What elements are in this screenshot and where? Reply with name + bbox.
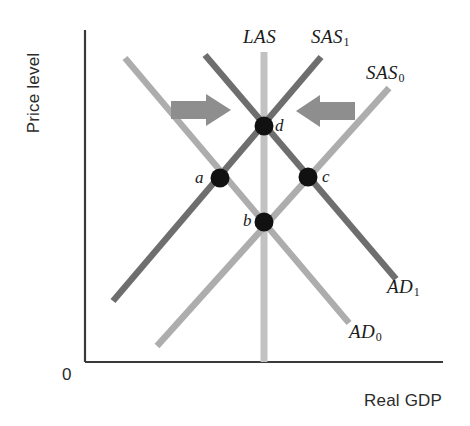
curve-label-sas1: SAS1	[311, 27, 350, 46]
curve-label-sas0: SAS0	[366, 63, 405, 82]
curve-ad1	[205, 55, 396, 279]
curve-label-sas1-sub: 1	[343, 35, 350, 49]
point-label-a: a	[195, 169, 204, 186]
point-a-marker	[211, 169, 230, 188]
curve-label-sas0-text: SAS	[366, 62, 398, 83]
point-label-b: b	[243, 212, 252, 229]
curve-label-ad1-text: AD	[387, 276, 413, 297]
y-axis-title: Price level	[24, 53, 44, 134]
as-ad-diagram-figure: Price level Real GDP 0 LAS SAS1 SAS0 AD1…	[0, 0, 470, 426]
x-axis-title: Real GDP	[364, 392, 442, 409]
curve-ad0	[125, 58, 349, 323]
curve-label-sas1-text: SAS	[311, 26, 343, 47]
curve-label-ad0-text: AD	[349, 321, 375, 342]
origin-label: 0	[62, 366, 71, 383]
curve-label-las-text: LAS	[243, 26, 276, 47]
point-c-marker	[299, 168, 318, 187]
curve-label-ad0: AD0	[349, 322, 382, 341]
curve-label-sas0-sub: 0	[398, 71, 405, 85]
point-label-c: c	[322, 168, 330, 185]
curve-label-ad1: AD1	[387, 277, 420, 296]
y-axis-title-wrapper: Price level	[22, 18, 46, 168]
point-b-marker	[255, 213, 274, 232]
curve-label-ad1-sub: 1	[413, 285, 420, 299]
curve-label-las: LAS	[243, 27, 276, 46]
leftward-shift-arrow	[296, 95, 355, 127]
point-label-d: d	[275, 117, 284, 134]
point-d-marker	[255, 117, 274, 136]
curve-label-ad0-sub: 0	[375, 330, 382, 344]
